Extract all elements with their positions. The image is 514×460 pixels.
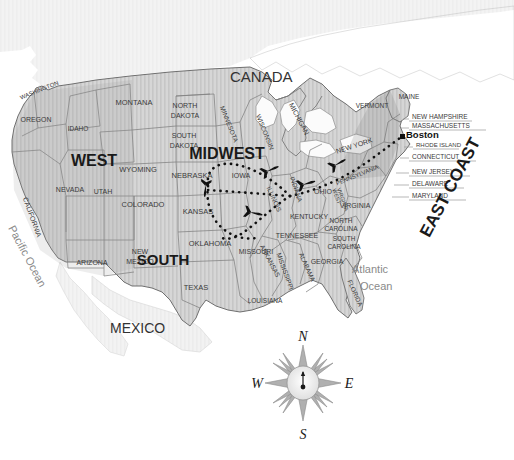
region-label-south: SOUTH bbox=[137, 251, 190, 268]
callout-label-new-hampshire: NEW HAMPSHIRE bbox=[412, 113, 468, 120]
region-label-midwest: MIDWEST bbox=[189, 145, 265, 162]
compass-east-label: E bbox=[344, 376, 354, 391]
state-label-iowa-22: IOWA bbox=[232, 172, 251, 179]
state-label-dakota-5: DAKOTA bbox=[171, 112, 200, 119]
canada-label: CANADA bbox=[230, 68, 293, 85]
compass-west-label: W bbox=[251, 376, 264, 391]
state-label-montana-3: MONTANA bbox=[116, 98, 153, 107]
state-label-colorado-12: COLORADO bbox=[122, 200, 165, 209]
compass-north-label: N bbox=[297, 329, 308, 344]
state-label-wyoming-8: WYOMING bbox=[119, 165, 157, 174]
state-label-tennessee-28: TENNESSEE bbox=[276, 232, 319, 239]
state-label-vermont-45: VERMONT bbox=[356, 102, 389, 109]
state-label-north-4: NORTH bbox=[173, 102, 198, 109]
state-label-nevada-10: NEVADA bbox=[56, 186, 85, 193]
state-label-south-6: SOUTH bbox=[172, 132, 197, 139]
state-label-south-36: SOUTH bbox=[333, 235, 356, 242]
callout-label-massachusetts: MASSACHUSETTS bbox=[412, 122, 470, 129]
us-regions-map: WASHINGTONOREGONIDAHOMONTANANORTHDAKOTAS… bbox=[0, 0, 514, 460]
state-label-nebraska-9: NEBRASKA bbox=[172, 171, 213, 180]
state-label-kansas-14: KANSAS bbox=[183, 207, 213, 216]
state-label-oklahoma-18: OKLAHOMA bbox=[189, 239, 232, 248]
map-canvas: WASHINGTONOREGONIDAHOMONTANANORTHDAKOTAS… bbox=[0, 0, 514, 460]
state-label-texas-19: TEXAS bbox=[184, 283, 209, 292]
callout-label-connecticut: CONNECTICUT bbox=[412, 153, 459, 160]
state-label-carolina-37: CAROLINA bbox=[327, 243, 361, 250]
compass-south-label: S bbox=[300, 427, 307, 442]
state-label-arizona-15: ARIZONA bbox=[76, 259, 107, 266]
boston-marker-square bbox=[400, 134, 405, 139]
state-label-georgia-34: GEORGIA bbox=[311, 258, 344, 265]
city-marker-boston[interactable] bbox=[400, 134, 405, 139]
region-label-west: WEST bbox=[71, 152, 117, 169]
state-label-kentucky-29: KENTUCKY bbox=[290, 213, 328, 220]
compass-pivot bbox=[301, 385, 306, 390]
city-label-boston: Boston bbox=[406, 129, 439, 140]
state-label-north-38: NORTH bbox=[330, 217, 353, 224]
atlantic-ocean-label-line1: Atlantic bbox=[352, 263, 389, 275]
state-label-ohio-33: OHIO bbox=[314, 188, 332, 195]
state-label-carolina-39: CAROLINA bbox=[324, 225, 358, 232]
state-label-idaho-2: IDAHO bbox=[68, 125, 89, 132]
state-label-louisiana-25: LOUISIANA bbox=[248, 297, 283, 304]
mexico-label: MEXICO bbox=[110, 320, 165, 336]
state-label-oregon-1: OREGON bbox=[20, 116, 51, 123]
atlantic-ocean-label-line2: Ocean bbox=[360, 280, 392, 292]
state-label-maine-46: MAINE bbox=[399, 93, 420, 100]
callout-label-rhode-island: RHODE ISLAND bbox=[416, 142, 462, 148]
state-label-utah-11: UTAH bbox=[94, 188, 113, 195]
city-labels-group: Boston bbox=[406, 129, 439, 140]
